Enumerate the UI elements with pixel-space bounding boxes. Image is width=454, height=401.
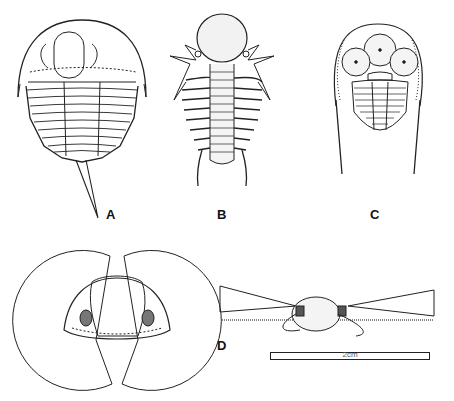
- trilobite-a-drawing: [18, 20, 146, 218]
- panel-label-c: C: [370, 207, 379, 222]
- trilobite-figure: A B C D 2cm: [0, 0, 454, 401]
- scale-bar: 2cm: [270, 352, 430, 360]
- panel-label-a: A: [106, 207, 115, 222]
- trilobite-b-drawing: [170, 14, 274, 186]
- panel-label-b: B: [217, 207, 226, 222]
- trilobite-d-front-view-drawing: [13, 250, 222, 390]
- figure-drawings: [0, 0, 454, 401]
- trilobite-d-side-view-drawing: [220, 286, 434, 336]
- panel-label-d: D: [217, 338, 226, 353]
- scale-bar-label: 2cm: [271, 350, 429, 359]
- trilobite-c-drawing: [334, 24, 422, 174]
